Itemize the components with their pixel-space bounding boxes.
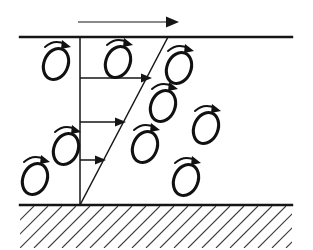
eddy-4 bbox=[146, 82, 180, 125]
eddy-3 bbox=[162, 44, 196, 87]
eddy-4-body bbox=[146, 87, 180, 126]
eddy-6 bbox=[128, 123, 162, 166]
eddy-1-rotation-arrowhead bbox=[61, 40, 71, 49]
wall-hatching bbox=[0, 206, 313, 248]
eddy-5 bbox=[189, 104, 223, 147]
hatch-stroke bbox=[0, 206, 20, 248]
hatch-stroke bbox=[286, 206, 313, 248]
hatch-stroke bbox=[300, 206, 313, 248]
eddy-9-body bbox=[18, 160, 52, 199]
flow-diagram bbox=[0, 0, 313, 250]
hatch-stroke bbox=[272, 206, 313, 248]
eddy-9 bbox=[18, 155, 52, 198]
eddy-2-body bbox=[101, 43, 135, 82]
eddy-3-body bbox=[162, 49, 196, 88]
eddy-7 bbox=[49, 125, 83, 168]
eddy-9-rotation-arrowhead bbox=[40, 155, 50, 164]
velocity-arrow-upper-head bbox=[141, 74, 152, 83]
eddy-3-rotation-arrowhead bbox=[184, 44, 194, 53]
eddy-2-rotation-arrowhead bbox=[123, 38, 133, 47]
diagram-canvas bbox=[0, 0, 313, 250]
eddy-1-body bbox=[39, 45, 73, 84]
eddy-5-body bbox=[189, 109, 223, 148]
free-stream-arrow bbox=[78, 17, 179, 28]
velocity-arrow-lower-head bbox=[95, 156, 106, 165]
eddy-6-body bbox=[128, 128, 162, 167]
eddy-8-rotation-arrowhead bbox=[191, 156, 201, 165]
eddy-5-rotation-arrowhead bbox=[211, 104, 221, 113]
free-stream-arrow-head bbox=[166, 17, 179, 28]
eddy-8-body bbox=[169, 161, 203, 200]
eddy-8 bbox=[169, 156, 203, 199]
eddy-2 bbox=[101, 38, 135, 81]
velocity-arrow-middle bbox=[80, 118, 126, 127]
hatch-stroke bbox=[0, 206, 34, 248]
eddy-6-rotation-arrowhead bbox=[150, 123, 160, 132]
eddy-7-body bbox=[49, 130, 83, 169]
eddy-group bbox=[18, 38, 223, 199]
eddy-1 bbox=[39, 40, 73, 83]
